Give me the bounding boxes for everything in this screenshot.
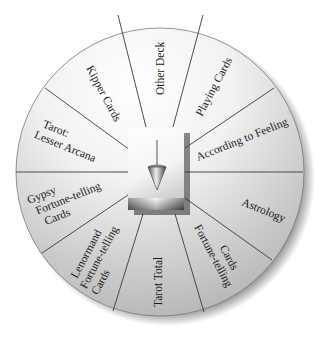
label-other-deck: Other Deck (154, 41, 166, 95)
pendulum-wheel-diagram: Other Deck Playing Cards According to Fe… (0, 0, 324, 343)
label-tarot-total: Tarot Total (152, 257, 164, 307)
